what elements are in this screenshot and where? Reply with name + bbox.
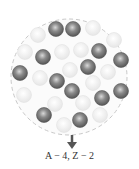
neutron bbox=[48, 97, 63, 112]
neutron bbox=[63, 63, 78, 78]
neutron bbox=[86, 76, 101, 91]
proton bbox=[37, 108, 52, 123]
proton bbox=[50, 74, 65, 89]
neutron bbox=[31, 28, 46, 43]
neutron bbox=[17, 88, 32, 103]
proton bbox=[66, 22, 81, 37]
neutron bbox=[93, 108, 108, 123]
neutron bbox=[101, 65, 116, 80]
neutron bbox=[74, 43, 89, 58]
proton bbox=[65, 84, 80, 99]
proton bbox=[95, 91, 110, 106]
proton bbox=[114, 84, 129, 99]
daughter-nucleus-label: A − 4, Z − 2 bbox=[0, 150, 139, 161]
down-arrow-icon bbox=[67, 135, 77, 149]
proton bbox=[81, 60, 96, 75]
proton bbox=[92, 44, 107, 59]
proton bbox=[73, 113, 88, 128]
proton bbox=[36, 50, 51, 65]
proton bbox=[114, 53, 129, 68]
nucleus-diagram bbox=[0, 0, 139, 169]
neutron bbox=[76, 96, 91, 111]
neutron bbox=[33, 71, 48, 86]
neutron bbox=[107, 33, 122, 48]
neutron bbox=[86, 21, 101, 36]
neutron bbox=[57, 118, 72, 133]
neutron bbox=[18, 45, 33, 60]
neutron bbox=[55, 45, 70, 60]
proton bbox=[13, 66, 28, 81]
proton bbox=[49, 22, 64, 37]
